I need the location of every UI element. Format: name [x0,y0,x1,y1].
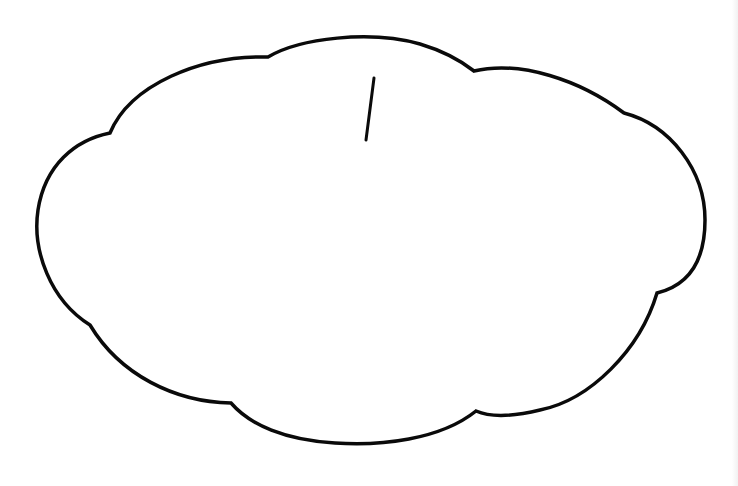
cloud-diagram [0,0,738,486]
scan-edge-shade [732,0,738,486]
drawing-canvas [0,0,738,486]
